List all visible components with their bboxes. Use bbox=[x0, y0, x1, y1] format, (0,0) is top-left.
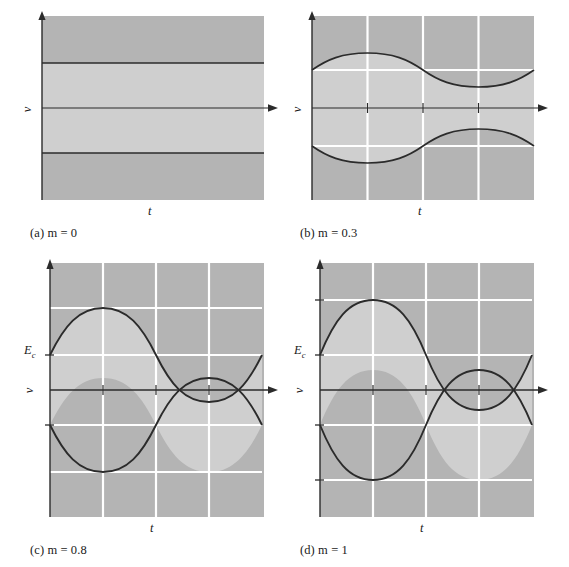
panel-a-y-axis-label: v bbox=[20, 95, 35, 125]
panel-c: Ec v t (c) m = 0.8 bbox=[20, 255, 285, 555]
panel-c-y-axis-label: v bbox=[22, 376, 37, 406]
panel-d-plot bbox=[290, 255, 555, 525]
panel-a-caption: (a) m = 0 bbox=[30, 226, 77, 241]
panel-c-ec-label: Ec bbox=[24, 343, 35, 360]
panel-c-x-axis-label: t bbox=[150, 521, 153, 536]
panel-b-y-axis-label: v bbox=[290, 95, 305, 125]
panel-d-x-axis-label: t bbox=[420, 521, 423, 536]
panel-c-ec-sub: c bbox=[32, 350, 36, 360]
panel-a: v t (a) m = 0 bbox=[20, 8, 285, 233]
panel-d-ec-label: Ec bbox=[294, 343, 305, 360]
panel-d-caption: (d) m = 1 bbox=[300, 543, 348, 558]
panel-d-ec-base: E bbox=[294, 343, 302, 357]
panel-d-y-axis-label: v bbox=[292, 376, 307, 406]
panel-b-caption: (b) m = 0.3 bbox=[300, 226, 357, 241]
panel-c-plot bbox=[20, 255, 285, 525]
panel-b-x-axis-label: t bbox=[418, 204, 421, 219]
panel-d-ec-sub: c bbox=[302, 350, 306, 360]
panel-c-ec-base: E bbox=[24, 343, 32, 357]
panel-a-plot bbox=[20, 8, 285, 208]
panel-a-x-axis-label: t bbox=[148, 204, 151, 219]
panel-b-plot bbox=[290, 8, 555, 208]
panel-c-caption: (c) m = 0.8 bbox=[30, 543, 87, 558]
panel-b: v t (b) m = 0.3 bbox=[290, 8, 555, 233]
panel-d: Ec v t (d) m = 1 bbox=[290, 255, 555, 555]
figure-canvas: v t (a) m = 0 bbox=[0, 0, 569, 567]
